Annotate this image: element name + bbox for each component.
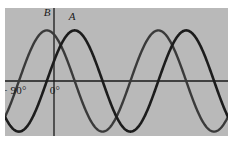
curve-label-a: A	[69, 10, 76, 22]
curve-label-b: B	[44, 8, 51, 18]
plot-panel: − 90° 0° B A	[5, 8, 228, 136]
sine-wave-figure: − 90° 0° B A	[0, 0, 235, 145]
tick-label-zero: 0°	[50, 84, 61, 96]
tick-label-neg90: − 90°	[5, 84, 27, 96]
plot-canvas	[5, 8, 228, 136]
